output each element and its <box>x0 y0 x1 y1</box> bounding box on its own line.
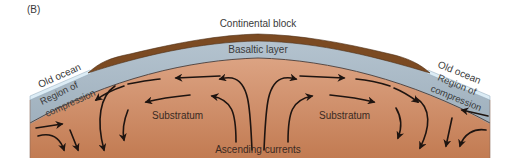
continental-block-label: Continental block <box>220 18 298 29</box>
substratum-left-label: Substratum <box>152 110 203 121</box>
basaltic-layer-label: Basaltic layer <box>228 44 288 55</box>
ascending-currents-label: Ascending currents <box>215 144 301 155</box>
convection-diagram: (B) Continental block Basaltic layer Old… <box>0 0 516 165</box>
substratum-right-label: Substratum <box>319 110 370 121</box>
panel-label: (B) <box>27 4 40 15</box>
